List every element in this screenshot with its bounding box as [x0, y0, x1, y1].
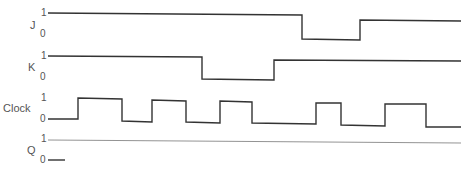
q-reference-line — [48, 140, 461, 143]
waveform-clock — [48, 98, 461, 127]
waveform-k — [48, 56, 461, 80]
waveform-j — [48, 13, 461, 40]
waveform-canvas — [0, 0, 461, 171]
